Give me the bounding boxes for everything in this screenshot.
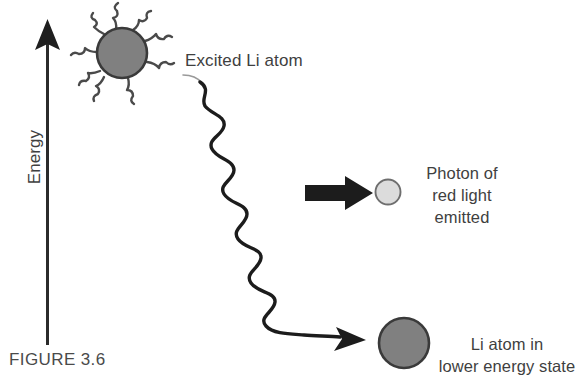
squiggle-wsw [79, 71, 100, 85]
photon-emission-arrow [305, 176, 373, 210]
emission-arrow-shape [305, 176, 373, 210]
emitted-photon-wave [200, 82, 340, 337]
lower-state-atom-label: Li atom in lower energy state [432, 334, 582, 378]
squiggle-sw [94, 77, 105, 101]
squiggle-w [71, 48, 97, 55]
squiggle-nw [91, 13, 104, 34]
excited-li-atom-circle [97, 28, 147, 78]
squiggle-ene [145, 34, 172, 41]
figure-caption: FIGURE 3.6 [9, 349, 106, 371]
excited-atom-label: Excited Li atom [185, 50, 303, 72]
lower-state-label-line-1: Li atom in [432, 334, 582, 356]
photon-label-line-1: Photon of [406, 163, 518, 185]
photon-label: Photon of red light emitted [406, 163, 518, 228]
squiggle-n [113, 3, 118, 29]
emitted-photon-circle [376, 180, 401, 205]
energy-axis-label: Energy [24, 112, 46, 202]
squiggle-ese [147, 62, 174, 68]
photon-label-line-2: red light [406, 185, 518, 207]
wave-arrowhead [334, 327, 366, 351]
figure-diagram: Energy Excited Li atom Photon of red lig… [0, 0, 583, 392]
lower-state-label-line-2: lower energy state [432, 356, 582, 378]
photon-wave-group [183, 75, 366, 351]
lower-state-li-atom-circle [379, 318, 429, 368]
squiggle-s [127, 78, 134, 104]
photon-label-line-3: emitted [406, 207, 518, 229]
squiggle-ne [133, 11, 151, 30]
